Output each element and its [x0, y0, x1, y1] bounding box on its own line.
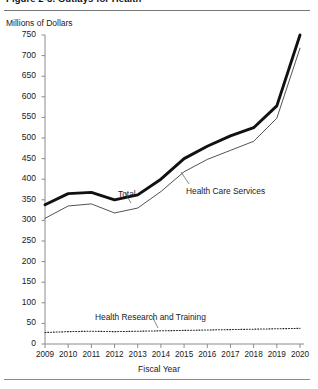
- y-axis-tick-label: 450: [8, 153, 36, 163]
- y-axis-tick-label: 600: [8, 91, 36, 101]
- x-axis-tick-label: 2015: [171, 350, 197, 359]
- line-chart-svg: [0, 0, 318, 389]
- chart-plot-area: [0, 0, 318, 389]
- x-axis-tick-label: 2017: [217, 350, 243, 359]
- y-axis-tick-label: 150: [8, 276, 36, 286]
- y-axis-tick-label: 550: [8, 111, 36, 121]
- y-axis-tick-label: 750: [8, 29, 36, 39]
- series-line-health-research-and-training: [45, 328, 300, 332]
- series-line-total: [45, 35, 300, 205]
- y-axis-tick-label: 250: [8, 235, 36, 245]
- y-axis-tick-label: 300: [8, 214, 36, 224]
- y-axis-tick-label: 50: [8, 317, 36, 327]
- series-annotation-health-research-and-training: Health Research and Training: [95, 312, 206, 322]
- x-axis-tick-label: 2018: [241, 350, 267, 359]
- y-axis-tick-label: 350: [8, 194, 36, 204]
- series-annotation-total: Total: [118, 189, 136, 199]
- x-axis-tick-label: 2012: [102, 350, 128, 359]
- y-axis-tick-label: 400: [8, 173, 36, 183]
- x-axis-tick-label: 2010: [55, 350, 81, 359]
- leader-line-health-care-services: [181, 172, 189, 184]
- figure-root: Figure 2-3. Outlays for Health Millions …: [0, 0, 318, 389]
- y-axis-tick-label: 500: [8, 132, 36, 142]
- series-annotation-health-care-services: Health Care Services: [186, 186, 265, 196]
- x-axis-tick-label: 2019: [264, 350, 290, 359]
- y-axis-tick-label: 0: [8, 338, 36, 348]
- x-axis-caption: Fiscal Year: [0, 364, 318, 374]
- y-axis-tick-label: 700: [8, 50, 36, 60]
- y-axis-tick-label: 100: [8, 297, 36, 307]
- x-axis-tick-label: 2020: [287, 350, 313, 359]
- y-axis-tick-label: 200: [8, 256, 36, 266]
- y-axis-tick-label: 650: [8, 70, 36, 80]
- x-axis-tick-label: 2011: [78, 350, 104, 359]
- footer-divider: [4, 379, 310, 380]
- x-axis-tick-label: 2016: [194, 350, 220, 359]
- x-axis-tick-label: 2013: [125, 350, 151, 359]
- x-axis-tick-label: 2009: [32, 350, 58, 359]
- x-axis-tick-label: 2014: [148, 350, 174, 359]
